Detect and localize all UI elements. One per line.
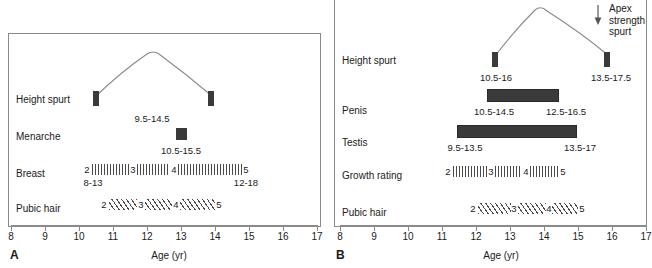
breast-stage-5-a: 5 (243, 164, 248, 175)
x-label-8-b: 8 (337, 231, 343, 243)
x-label-16-a: 16 (277, 231, 288, 243)
penis-right-range-b: 12.5-16.5 (546, 106, 586, 117)
height-spurt-right-range-b: 13.5-17.5 (591, 72, 631, 83)
x-label-16-b: 16 (606, 231, 617, 243)
x-label-17-a: 17 (311, 231, 322, 243)
growth-rating-seg-3-4-b (495, 166, 522, 177)
x-axis-title-a: Age (yr) (6, 250, 332, 262)
apex-arrow-icon (592, 4, 604, 26)
breast-stage-bar-a: 2 3 4 5 (0, 164, 326, 175)
plot-area-a (8, 33, 321, 227)
breast-stage-4-a: 4 (171, 164, 176, 175)
row-label-penis-b: Penis (342, 105, 367, 117)
panel-a-girls: Height spurt 9.5-14.5 Menarche 10.5-15.5… (0, 0, 326, 268)
x-axis-labels-a: 8 9 10 11 12 13 14 15 16 17 (0, 231, 326, 245)
breast-seg-4-5-a (178, 164, 242, 175)
x-axis-spine-b (340, 225, 646, 226)
testis-left-range-b: 9.5-13.5 (448, 142, 483, 153)
breast-stage-2-a: 2 (84, 164, 89, 175)
row-label-height-spurt-a: Height spurt (16, 94, 70, 106)
breast-stage-3-a: 3 (130, 164, 135, 175)
pubic-hair-stage-2-b: 2 (470, 203, 475, 214)
panel-letter-b: B (336, 248, 345, 262)
x-label-13-a: 13 (175, 231, 186, 243)
height-spurt-marker-end-b (604, 52, 610, 67)
x-label-14-a: 14 (209, 231, 220, 243)
growth-rating-seg-4-5-b (530, 166, 559, 177)
pubic-hair-stage-2-a: 2 (101, 199, 106, 210)
pubic-hair-stage-3-a: 3 (138, 199, 143, 210)
growth-rating-stage-bar-b: 2 3 4 5 (326, 166, 652, 177)
pubic-hair-stage-bar-a: 2 3 4 5 (0, 199, 326, 210)
x-label-12-a: 12 (141, 231, 152, 243)
x-label-15-b: 15 (572, 231, 583, 243)
pubic-hair-stage-4-b: 4 (546, 203, 551, 214)
row-label-height-spurt-b: Height spurt (342, 55, 396, 67)
x-label-9-a: 9 (42, 231, 48, 243)
panel-letter-a: A (10, 248, 19, 262)
pubic-hair-stage-bar-b: 2 3 4 5 (326, 203, 652, 214)
pubic-hair-stage-5-b: 5 (579, 203, 584, 214)
growth-rating-stage-5-b: 5 (560, 166, 565, 177)
breast-seg-3-4-a (137, 164, 170, 175)
pubic-hair-seg-3-4-b (518, 203, 546, 214)
height-spurt-marker-start-a (93, 91, 99, 106)
height-spurt-range-a: 9.5-14.5 (135, 113, 170, 124)
row-label-menarche-a: Menarche (16, 131, 60, 143)
growth-rating-seg-2-3-b (453, 166, 487, 177)
pubic-hair-stage-3-b: 3 (511, 203, 516, 214)
penis-left-range-b: 10.5-14.5 (474, 106, 514, 117)
growth-rating-stage-3-b: 3 (488, 166, 493, 177)
x-axis-title-b: Age (yr) (338, 250, 652, 262)
breast-left-range-a: 8-13 (83, 177, 102, 188)
x-label-8-a: 8 (8, 231, 14, 243)
testis-right-range-b: 13.5-17 (564, 142, 596, 153)
pubic-hair-seg-4-5-b (552, 203, 578, 214)
testis-bar-b (457, 125, 577, 138)
x-axis-spine-a (11, 225, 317, 226)
x-label-11-b: 11 (437, 231, 447, 243)
height-spurt-marker-end-a (208, 91, 214, 106)
row-label-testis-b: Testis (342, 137, 368, 149)
height-spurt-left-range-b: 10.5-16 (480, 72, 512, 83)
height-spurt-marker-start-b (492, 52, 498, 67)
menarche-range-a: 10.5-15.5 (161, 145, 201, 156)
x-label-9-b: 9 (371, 231, 377, 243)
penis-bar-b (487, 89, 559, 102)
panel-b-boys: Apex strength spurt Height spurt 10.5-16… (326, 0, 652, 268)
x-label-12-b: 12 (470, 231, 481, 243)
menarche-marker-a (176, 128, 187, 140)
pubic-hair-seg-4-5-a (180, 199, 215, 210)
breast-seg-2-3-a (92, 164, 129, 175)
breast-right-range-a: 12-18 (234, 177, 258, 188)
x-label-15-a: 15 (243, 231, 254, 243)
x-label-11-a: 11 (108, 231, 118, 243)
x-label-10-a: 10 (73, 231, 84, 243)
apex-strength-spurt-annotation: Apex strength spurt (609, 3, 645, 38)
pubic-hair-seg-2-3-b (478, 203, 511, 214)
x-label-14-b: 14 (538, 231, 549, 243)
x-axis-labels-b: 8 9 10 11 12 13 14 15 16 17 (326, 231, 652, 245)
growth-rating-stage-4-b: 4 (523, 166, 528, 177)
pubic-hair-stage-4-a: 4 (173, 199, 178, 210)
x-label-17-b: 17 (640, 231, 651, 243)
x-label-10-b: 10 (402, 231, 413, 243)
pubic-hair-stage-5-a: 5 (216, 199, 221, 210)
x-label-13-b: 13 (504, 231, 515, 243)
pubic-hair-seg-2-3-a (109, 199, 137, 210)
pubic-hair-seg-3-4-a (145, 199, 172, 210)
growth-rating-stage-2-b: 2 (445, 166, 450, 177)
